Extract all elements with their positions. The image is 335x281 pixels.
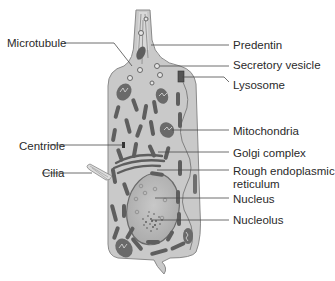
label-cilia: Cilia bbox=[42, 167, 64, 179]
label-centriole: Centriole bbox=[19, 140, 65, 152]
label-nucleolus: Nucleolus bbox=[233, 214, 284, 226]
label-lysosome: Lysosome bbox=[233, 79, 285, 91]
label-rough-er-line2: reticulum bbox=[233, 178, 280, 190]
label-predentin: Predentin bbox=[233, 39, 282, 51]
label-nucleus: Nucleus bbox=[233, 193, 275, 205]
label-mitochondria: Mitochondria bbox=[233, 125, 299, 137]
label-microtubule: Microtubule bbox=[7, 37, 66, 49]
label-secretory-vesicle: Secretory vesicle bbox=[233, 59, 321, 71]
label-rough-er-line1: Rough endoplasmic bbox=[233, 165, 335, 177]
lysosome bbox=[178, 71, 184, 82]
label-golgi-complex: Golgi complex bbox=[233, 147, 306, 159]
